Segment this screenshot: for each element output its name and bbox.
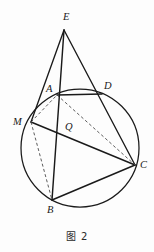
segment-EC <box>64 30 135 165</box>
segment-BC <box>52 165 135 200</box>
segment-EB <box>52 30 64 200</box>
segment-MB-dashed <box>31 122 52 200</box>
circumcircle <box>21 89 139 207</box>
point-label-A: A <box>46 84 52 95</box>
point-label-E: E <box>63 12 69 23</box>
point-label-B: B <box>47 205 53 216</box>
point-label-Q: Q <box>65 122 73 133</box>
geometry-figure: E A D M Q C B 图 2 <box>0 0 154 252</box>
point-label-D: D <box>104 81 112 92</box>
point-label-C: C <box>140 160 147 171</box>
geometry-canvas <box>0 0 154 252</box>
segment-MC <box>31 122 135 165</box>
segment-AD <box>57 94 102 95</box>
point-label-M: M <box>13 117 22 128</box>
figure-caption: 图 2 <box>0 228 154 243</box>
segment-MA-dashed <box>31 95 57 122</box>
